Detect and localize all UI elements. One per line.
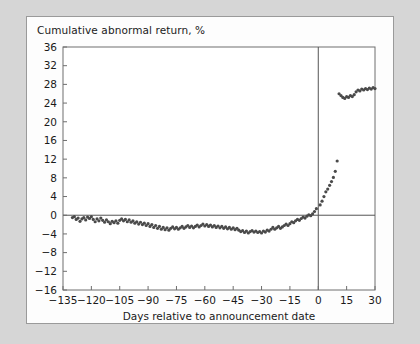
x-axis-tick-label: −90 — [137, 294, 159, 306]
data-point — [77, 216, 80, 219]
data-point — [315, 207, 318, 210]
data-point — [313, 210, 316, 213]
data-point — [330, 180, 333, 183]
x-axis-tick-label: 15 — [340, 294, 353, 306]
x-axis-tick-label: −105 — [105, 294, 134, 306]
y-axis-tick-label: 32 — [44, 59, 57, 71]
data-point — [90, 215, 93, 218]
y-axis-tick-label: 24 — [44, 97, 58, 109]
y-axis-tick-label: 16 — [44, 134, 58, 146]
data-point — [154, 224, 157, 227]
data-point — [373, 87, 376, 90]
data-point — [146, 222, 149, 225]
data-point — [332, 176, 335, 179]
y-axis-tick-label: −8 — [42, 246, 57, 258]
data-point — [116, 222, 119, 225]
chart-plot: −16−12−8−404812162024283236−135−120−105−… — [27, 17, 395, 325]
data-point — [326, 187, 329, 190]
x-axis-tick-label: −75 — [165, 294, 187, 306]
y-axis-tick-label: 0 — [50, 209, 57, 221]
data-point — [84, 218, 87, 221]
data-point — [150, 223, 153, 226]
x-axis-tick-label: −60 — [194, 294, 216, 306]
data-point — [73, 215, 76, 218]
data-point — [322, 195, 325, 198]
data-point — [334, 170, 337, 173]
figure-panel: Cumulative abnormal return, % −16−12−8−4… — [26, 16, 394, 324]
data-point — [324, 190, 327, 193]
data-point — [328, 184, 331, 187]
data-point — [94, 220, 97, 223]
y-axis-tick-label: 8 — [50, 172, 57, 184]
y-axis-tick-label: 12 — [44, 153, 57, 165]
y-axis-tick-label: −12 — [35, 265, 57, 277]
x-axis-tick-label: −120 — [77, 294, 106, 306]
y-axis-tick-label: 20 — [44, 116, 57, 128]
y-axis-tick-label: 36 — [44, 41, 58, 53]
x-axis-tick-label: −45 — [222, 294, 244, 306]
x-axis-tick-label: −30 — [250, 294, 272, 306]
x-axis-title: Days relative to announcement date — [123, 310, 316, 322]
data-point — [319, 203, 322, 206]
x-axis-tick-label: 30 — [368, 294, 381, 306]
y-axis-tick-label: 28 — [44, 78, 57, 90]
x-axis-tick-label: 0 — [315, 294, 322, 306]
data-point — [97, 219, 100, 222]
y-axis-tick-label: −4 — [42, 228, 58, 240]
data-point — [353, 93, 356, 96]
y-axis-tick-label: 4 — [50, 190, 57, 202]
x-axis-tick-label: −135 — [49, 294, 78, 306]
data-point — [336, 159, 339, 162]
plot-background — [63, 47, 375, 290]
data-point — [320, 200, 323, 203]
x-axis-tick-label: −15 — [279, 294, 301, 306]
data-point — [158, 225, 161, 228]
